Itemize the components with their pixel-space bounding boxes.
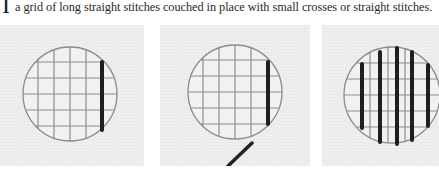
stitch-grid-illustration	[160, 25, 310, 166]
figure-panel-2	[160, 25, 310, 166]
figure-panel-1	[0, 25, 144, 166]
stitch-grid-illustration	[322, 25, 439, 166]
stitch-grid-illustration	[0, 25, 144, 166]
caption: I a grid of long straight stitches couch…	[0, 0, 439, 17]
drop-cap: I	[2, 0, 10, 17]
caption-text: a grid of long straight stitches couched…	[15, 0, 432, 14]
figure-panel-3	[322, 25, 439, 166]
